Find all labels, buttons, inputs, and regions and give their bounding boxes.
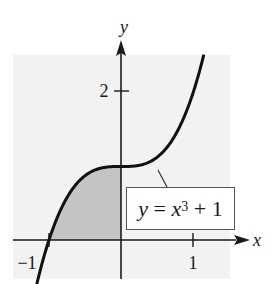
- function-plot: y x 2 1 −1 y = x3 + 1: [0, 0, 270, 284]
- x-tick-label-neg1: −1: [17, 253, 36, 273]
- y-axis-label: y: [118, 17, 128, 37]
- eq-x: x: [172, 196, 182, 222]
- x-tick-label-1: 1: [189, 253, 198, 273]
- equation-label: y = x3 + 1: [126, 187, 235, 230]
- eq-rest: + 1: [188, 196, 222, 222]
- x-axis-arrow-icon: [234, 235, 250, 245]
- eq-exponent: 3: [181, 199, 188, 215]
- eq-equals: =: [148, 196, 171, 222]
- x-axis-label: x: [252, 230, 261, 250]
- plot-canvas: y x 2 1 −1: [0, 0, 270, 284]
- y-tick-label-2: 2: [100, 81, 109, 101]
- eq-y: y: [138, 196, 148, 222]
